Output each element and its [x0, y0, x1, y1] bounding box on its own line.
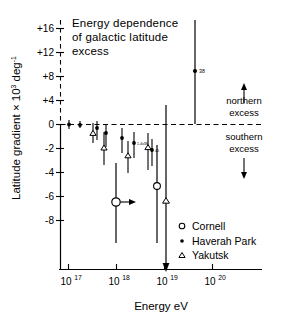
x-tick-exponent: 18 [122, 274, 130, 281]
y-axis-label-unit-exp: -1 [10, 56, 17, 62]
y-tick-label: +12 [37, 47, 54, 58]
filled-dot-marker [78, 123, 82, 127]
data-point [112, 163, 136, 243]
open-triangle-marker [90, 130, 96, 135]
data-point [145, 133, 151, 170]
legend: Cornell Haverah Park Yakutsk [179, 220, 257, 261]
y-tick-label: 0 [48, 119, 54, 130]
open-triangle-marker [125, 153, 131, 158]
latitude-gradient-chart: +16 +12 +8 +4 0 -2 -4 -6 -8 10 17 10 18 [0, 0, 283, 327]
data-point: 1.4x38 [132, 132, 148, 158]
data-point [78, 121, 82, 128]
data-point [104, 124, 108, 147]
legend-open-circle-icon [179, 223, 185, 229]
legend-filled-dot-icon [180, 239, 184, 243]
southern-excess-line-2: excess [229, 143, 259, 154]
data-point: 40 [150, 139, 159, 166]
y-axis-label: Latitude gradient × 103 deg-1 [10, 56, 22, 200]
x-tick-label: 10 [156, 276, 168, 287]
legend-open-triangle-icon [179, 253, 185, 258]
title-line-2: of galactic latitude [72, 31, 168, 43]
open-circle-marker [112, 198, 120, 206]
data-point [125, 141, 131, 173]
legend-label-cornell: Cornell [192, 220, 225, 232]
x-tick-label: 10 [204, 276, 216, 287]
x-axis-label: Energy eV [134, 300, 188, 312]
filled-dot-marker [132, 141, 136, 145]
y-tick-label: +16 [37, 23, 54, 34]
open-circle-marker [154, 183, 161, 190]
figure-container: +16 +12 +8 +4 0 -2 -4 -6 -8 10 17 10 18 [0, 0, 283, 327]
filled-dot-marker [104, 131, 108, 135]
y-tick-label: +8 [43, 71, 55, 82]
x-tick-labels: 10 17 10 18 10 19 10 20 [60, 274, 226, 287]
down-arrow-head-icon [163, 263, 170, 272]
y-axis-label-mult: × 10 [10, 88, 22, 111]
southern-excess-line-1: southern [226, 131, 263, 142]
data-point: 38 [193, 20, 205, 124]
y-axis-label-unit: deg [10, 62, 22, 81]
right-arrow-head-icon [129, 199, 136, 205]
data-point [95, 121, 99, 140]
x-tick-exponent: 17 [74, 274, 82, 281]
point-annotation: 38 [199, 68, 205, 74]
y-tick-label: -6 [45, 191, 54, 202]
up-arrow-head-icon [241, 83, 247, 90]
data-point [67, 120, 71, 129]
filled-dot-marker [193, 69, 197, 73]
data-point [120, 128, 124, 153]
northern-excess-annotation: northern excess [226, 83, 261, 118]
title-line-1: Energy dependence [72, 17, 178, 29]
down-arrow-head-icon [241, 172, 247, 179]
y-tick-label: -8 [45, 215, 54, 226]
y-tick-label: +4 [43, 95, 55, 106]
x-tick-label: 10 [60, 276, 72, 287]
y-tick-labels: +16 +12 +8 +4 0 -2 -4 -6 -8 [37, 23, 54, 226]
y-tick-label: -2 [45, 143, 54, 154]
x-tick-exponent: 19 [170, 274, 178, 281]
filled-dot-marker [95, 126, 99, 130]
data-point [163, 105, 170, 272]
legend-label-haverah-park: Haverah Park [192, 235, 257, 247]
data-point [154, 145, 161, 243]
x-tick-label: 10 [108, 276, 120, 287]
title-line-3: excess [72, 45, 109, 57]
chart-title: Energy dependence of galactic latitude e… [72, 17, 178, 57]
svg-text:Latitude gradient × 103 deg-1: Latitude gradient × 103 deg-1 [10, 56, 22, 200]
northern-excess-line-1: northern [226, 95, 261, 106]
filled-dot-marker [120, 136, 124, 140]
filled-dot-marker [67, 123, 71, 127]
y-axis-label-main: Latitude gradient [10, 114, 22, 200]
series-cornell [112, 145, 161, 243]
point-annotation: 1.4x38 [137, 142, 148, 146]
open-triangle-marker [163, 198, 170, 204]
northern-excess-line-2: excess [229, 107, 259, 118]
southern-excess-annotation: southern excess [226, 131, 263, 179]
x-tick-exponent: 20 [218, 274, 226, 281]
data-point [90, 123, 96, 143]
y-tick-label: -4 [45, 167, 54, 178]
legend-label-yakutsk: Yakutsk [192, 249, 229, 261]
